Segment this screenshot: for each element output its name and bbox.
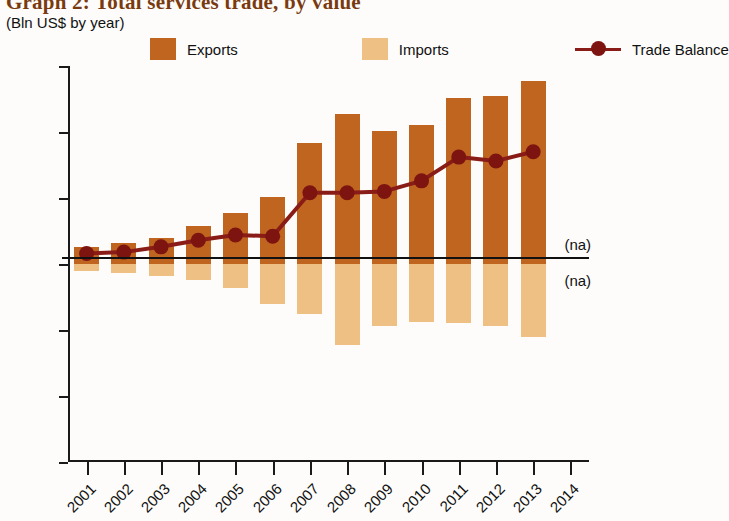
na-annotation: (na) — [564, 272, 591, 289]
x-axis-tick — [198, 462, 200, 475]
trade-balance-marker — [414, 173, 429, 188]
x-axis-tick — [273, 462, 275, 475]
trade-balance-marker — [377, 184, 392, 199]
x-axis-labels: 2001200220032004200520062007200820092010… — [68, 462, 628, 521]
x-axis-tick-label: 2002 — [94, 480, 136, 521]
x-axis-tick — [161, 462, 163, 475]
trade-balance-marker — [191, 233, 206, 248]
x-axis-tick — [533, 462, 535, 475]
legend-label: Trade Balance — [632, 41, 729, 58]
square-swatch-icon — [150, 38, 176, 60]
y-axis-tick — [59, 396, 68, 398]
x-axis-tick-label: 2009 — [355, 480, 397, 521]
trade-balance-marker — [228, 227, 243, 242]
trade-balance-marker — [265, 229, 280, 244]
x-axis-tick-label: 2010 — [392, 480, 434, 521]
x-axis-tick-label: 2011 — [429, 480, 471, 521]
x-axis-tick — [87, 462, 89, 475]
chart-legend: ExportsImportsTrade Balance — [150, 38, 729, 60]
trade-balance-marker — [340, 185, 355, 200]
y-axis-tick — [59, 264, 68, 266]
trade-balance-marker — [526, 144, 541, 159]
page-title: Graph 2: Total services trade, by value — [6, 0, 361, 15]
y-axis-tick — [59, 66, 68, 68]
x-axis-tick-label: 2005 — [206, 480, 248, 521]
y-axis-tick — [59, 132, 68, 134]
chart-subtitle: (Bln US$ by year) — [6, 14, 124, 31]
square-swatch-icon — [362, 38, 388, 60]
legend-item-imports[interactable]: Imports — [362, 38, 449, 60]
trade-balance-marker — [154, 239, 169, 254]
legend-label: Exports — [187, 41, 238, 58]
line-marker-icon — [575, 38, 621, 60]
legend-item-exports[interactable]: Exports — [150, 38, 238, 60]
x-axis-tick-label: 2014 — [541, 480, 583, 521]
y-axis-tick — [59, 330, 68, 332]
x-axis-tick-label: 2003 — [131, 480, 173, 521]
x-axis-tick-label: 2004 — [169, 480, 211, 521]
trade-balance-marker — [488, 154, 503, 169]
x-axis-tick — [310, 462, 312, 475]
x-axis-tick — [384, 462, 386, 475]
y-axis-tick — [59, 198, 68, 200]
x-axis-tick-label: 2001 — [57, 480, 99, 521]
x-axis-tick-label: 2012 — [466, 480, 508, 521]
x-axis-tick — [496, 462, 498, 475]
x-axis-tick — [459, 462, 461, 475]
x-axis-tick — [347, 462, 349, 475]
trade-balance-polyline — [87, 152, 534, 254]
plot-area: (na)(na) — [68, 66, 589, 462]
x-axis-tick-label: 2008 — [317, 480, 359, 521]
trade-balance-line — [68, 66, 589, 462]
trade-balance-marker — [451, 150, 466, 165]
zero-baseline — [62, 257, 589, 259]
x-axis-tick-label: 2007 — [280, 480, 322, 521]
na-annotation: (na) — [564, 236, 591, 253]
x-axis-tick — [570, 462, 572, 475]
legend-label: Imports — [399, 41, 449, 58]
x-axis-tick — [235, 462, 237, 475]
x-axis-tick — [124, 462, 126, 475]
y-axis-tick — [59, 462, 68, 464]
x-axis-tick-label: 2013 — [503, 480, 545, 521]
x-axis-tick — [422, 462, 424, 475]
legend-item-trade-balance[interactable]: Trade Balance — [575, 38, 729, 60]
x-axis-tick-label: 2006 — [243, 480, 285, 521]
trade-balance-marker — [302, 185, 317, 200]
